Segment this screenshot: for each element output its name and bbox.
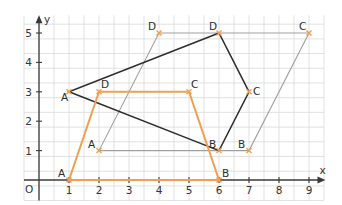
x-axis-label: x [320,164,326,176]
x-tick-label: 9 [306,184,313,196]
y-tick-label: 2 [25,115,32,127]
x-tick-label: 7 [246,184,253,196]
point-label-a: A [58,167,66,179]
point-label-c: C [299,20,306,32]
x-tick-label: 6 [216,184,223,196]
point-label-c: C [253,85,260,97]
point-label-c: C [191,78,198,90]
point-label-b: B [209,138,216,150]
point-label-a: A [61,91,69,103]
y-tick-label: 4 [25,56,32,68]
x-tick-label: 5 [186,184,193,196]
point-labels: ABCDABCDABCD [58,20,306,179]
point-label-d: D [148,20,156,32]
y-tick-label: 3 [25,86,32,98]
origin-label: O [25,183,33,195]
x-tick-label: 2 [96,184,103,196]
point-label-d: D [101,78,109,90]
point-label-a: A [88,138,96,150]
y-axis-arrow-icon [36,15,43,23]
y-axis-label: y [44,13,50,25]
x-tick-label: 4 [156,184,163,196]
point-label-b: B [238,138,245,150]
y-tick-label: 5 [25,27,32,39]
y-tick-label: 1 [25,145,32,157]
x-tick-label: 3 [126,184,133,196]
grid [24,15,324,200]
x-tick-label: 1 [66,184,73,196]
point-label-d: D [209,20,217,32]
x-tick-label: 8 [276,184,283,196]
point-label-b: B [222,167,229,179]
coordinate-diagram: xyO12345678912345 ABCDABCDABCD [0,0,342,205]
